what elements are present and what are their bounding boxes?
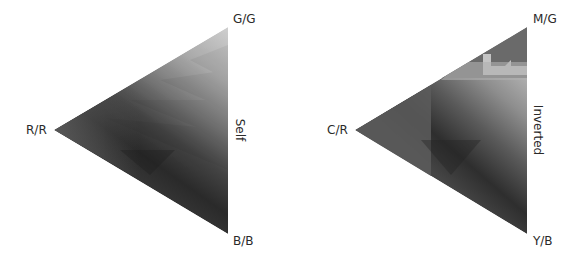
vertex-label-top: M/G — [533, 12, 557, 26]
panel-title-inverted: Inverted — [531, 105, 545, 155]
panel-self: G/G R/R B/B Self — [0, 0, 291, 261]
vertex-label-left: C/R — [327, 123, 348, 137]
panel-inverted: M/G C/R Y/B Inverted — [291, 0, 582, 261]
vertex-label-left: R/R — [26, 123, 47, 137]
vertex-label-bottom: B/B — [233, 234, 254, 248]
vertex-label-top: G/G — [233, 12, 256, 26]
vertex-label-bottom: Y/B — [533, 234, 553, 248]
panel-title-self: Self — [233, 119, 247, 142]
